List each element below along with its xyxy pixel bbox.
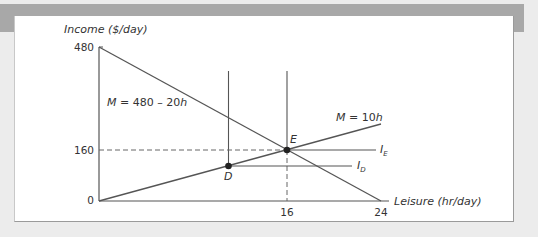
y-tick-label-160: 160 [74,144,94,156]
x-tick-label-24: 24 [374,206,388,218]
ray-equation: M = 10h [336,111,383,124]
x-axis-title: Leisure (hr/day) [394,195,481,208]
point-d-marker [225,163,232,170]
x-tick-label-16: 16 [280,206,294,218]
budget-equation-text: = 480 – 20 [117,96,181,109]
y-tick-label-480: 480 [74,41,94,53]
ray-equation-text: = 10 [346,111,376,124]
budget-equation-var: h [180,96,187,109]
budget-line [99,47,381,201]
point-e-marker [284,147,291,154]
chart-svg: Income ($/day) 480 160 0 16 24 Leisure (… [0,0,538,237]
id-label: ID [357,159,366,174]
ie-label-sub: E [383,150,388,158]
ray-equation-var: h [376,111,383,124]
id-label-sub: D [360,166,366,174]
point-d-label: D [224,170,232,183]
point-e-label: E [290,133,297,146]
ray-line [99,124,381,201]
y-axis-title: Income ($/day) [64,23,148,36]
y-tick-label-0: 0 [87,194,94,206]
budget-equation: M = 480 – 20h [107,96,187,109]
ie-label: IE [380,143,388,158]
